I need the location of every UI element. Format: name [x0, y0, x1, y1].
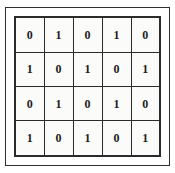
matrix-cell: 1: [131, 52, 160, 86]
matrix-cell: 1: [44, 17, 73, 52]
matrix-cell: 0: [73, 86, 102, 120]
binary-matrix-table: 0 1 0 1 0 1 0 1 0 1 0 1 0 1 0 1: [14, 16, 161, 157]
matrix-cell: 0: [131, 86, 160, 120]
matrix-cell: 1: [102, 17, 131, 52]
table-row: 0 1 0 1 0: [15, 17, 160, 52]
matrix-cell: 1: [15, 52, 44, 86]
matrix-cell: 0: [44, 121, 73, 156]
matrix-container: 0 1 0 1 0 1 0 1 0 1 0 1 0 1 0 1: [14, 16, 161, 157]
matrix-cell: 0: [102, 121, 131, 156]
table-row: 1 0 1 0 1: [15, 121, 160, 156]
matrix-cell: 0: [44, 52, 73, 86]
matrix-cell: 1: [131, 121, 160, 156]
matrix-cell: 1: [15, 121, 44, 156]
matrix-cell: 0: [73, 17, 102, 52]
matrix-cell: 0: [15, 17, 44, 52]
matrix-body: 0 1 0 1 0 1 0 1 0 1 0 1 0 1 0 1: [15, 17, 160, 156]
matrix-cell: 0: [102, 52, 131, 86]
table-row: 0 1 0 1 0: [15, 86, 160, 120]
matrix-cell: 1: [102, 86, 131, 120]
matrix-cell: 0: [131, 17, 160, 52]
matrix-cell: 1: [44, 86, 73, 120]
matrix-cell: 0: [15, 86, 44, 120]
matrix-cell: 1: [73, 121, 102, 156]
matrix-cell: 1: [73, 52, 102, 86]
table-row: 1 0 1 0 1: [15, 52, 160, 86]
